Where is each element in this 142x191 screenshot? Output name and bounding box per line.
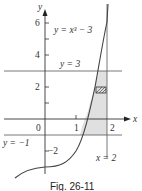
y-axis-label: y [37, 2, 43, 12]
x-axis-label: x [132, 114, 138, 124]
y-tick-4: 4 [35, 50, 40, 60]
y-tick-minus-2: −2 [48, 146, 58, 156]
y-axis-arrow-icon [43, 9, 48, 16]
figure-canvas: y x 6 4 2 −2 0 1 2 y = x³ − 3 y = 3 y = … [0, 0, 142, 191]
cubic-curve-label: y = x³ − 3 [53, 25, 93, 35]
lower-line-label: y = −1 [2, 138, 30, 148]
x-axis-arrow-icon [124, 117, 131, 122]
x-tick-1: 1 [74, 123, 79, 133]
upper-line-label: y = 3 [59, 59, 80, 69]
x-tick-0: 0 [36, 123, 41, 133]
x-tick-2: 2 [110, 123, 115, 133]
vertical-line-label: x = 2 [95, 153, 116, 163]
shaded-region [80, 71, 107, 135]
y-tick-2: 2 [35, 82, 40, 92]
y-tick-6: 6 [35, 18, 40, 28]
figure-caption: Fig. 26-11 [50, 181, 95, 191]
